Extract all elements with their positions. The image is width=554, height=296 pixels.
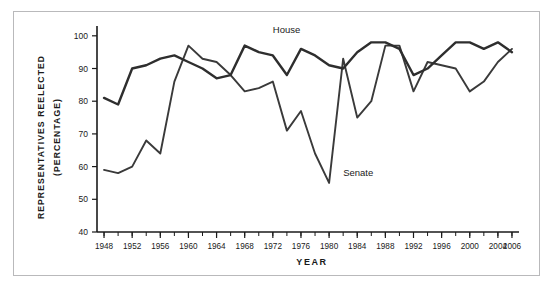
x-axis-tick-label: 2006 (503, 242, 522, 251)
x-axis-tick-label: 1972 (264, 242, 283, 251)
x-axis-tick-label: 1952 (123, 242, 142, 251)
x-axis-ticks (104, 232, 512, 238)
series-line-senate (104, 46, 512, 183)
y-axis-tick-label: 50 (79, 194, 89, 204)
chart-figure: REPRESENTATIVES REELECTED (PERCENTAGE) 4… (13, 11, 540, 276)
y-axis-tick-label: 40 (79, 227, 89, 237)
x-axis-title: YEAR (296, 257, 327, 267)
y-axis-tick-label: 60 (79, 162, 89, 172)
x-axis-tick-label: 1964 (207, 242, 226, 251)
y-axis-title-line1: REPRESENTATIVES REELECTED (36, 55, 46, 219)
x-axis-tick-label: 1988 (376, 242, 395, 251)
x-axis-tick-label: 2000 (461, 242, 480, 251)
y-axis-tick-label: 90 (79, 64, 89, 74)
y-axis-tick-label: 80 (79, 96, 89, 106)
x-axis-tick-label: 1992 (404, 242, 423, 251)
y-axis-tick-label: 100 (74, 31, 88, 41)
x-axis-tick-label: 1996 (433, 242, 452, 251)
y-axis-tick-label: 70 (79, 129, 89, 139)
series-line-house (104, 42, 512, 104)
x-axis-tick-label: 1980 (320, 242, 339, 251)
series-label-senate: Senate (343, 167, 373, 178)
y-axis-tick-labels: 405060708090100 (74, 31, 88, 237)
series-label-house: House (273, 24, 300, 35)
x-axis-tick-label: 1976 (292, 242, 311, 251)
chart-svg: REPRESENTATIVES REELECTED (PERCENTAGE) 4… (14, 12, 541, 277)
y-axis-title-line2: (PERCENTAGE) (52, 98, 62, 176)
y-axis-title: REPRESENTATIVES REELECTED (PERCENTAGE) (36, 55, 62, 219)
x-axis-tick-label: 1960 (179, 242, 198, 251)
x-axis-tick-label: 1968 (236, 242, 255, 251)
x-axis-tick-labels: 1948195219561960196419681972197619801984… (95, 242, 522, 251)
x-axis-tick-label: 1948 (95, 242, 114, 251)
chart-plot-area: REPRESENTATIVES REELECTED (PERCENTAGE) 4… (14, 12, 541, 277)
x-axis-tick-label: 1984 (348, 242, 367, 251)
x-axis-tick-label: 1956 (151, 242, 170, 251)
